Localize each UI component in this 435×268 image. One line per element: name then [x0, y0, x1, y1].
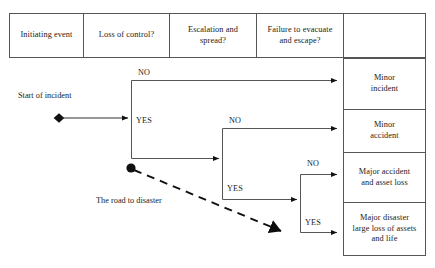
road-to-disaster-label: The road to disaster	[96, 196, 162, 206]
outcome-box-major-disaster	[344, 203, 426, 256]
road-start-circle-icon	[126, 163, 135, 172]
branch2-yes-label: YES	[227, 184, 243, 193]
branch3-no-label: NO	[307, 159, 319, 168]
start-of-incident-label: Start of incident	[18, 91, 71, 101]
branch2-no-label: NO	[229, 116, 241, 125]
start-node-group	[54, 113, 128, 123]
outcome-box-minor-accident	[344, 110, 426, 153]
branch3-yes-label: YES	[305, 218, 321, 227]
branch1-yes-label: YES	[136, 116, 152, 125]
diagram-vector-layer	[0, 0, 435, 268]
outcome-boxes	[344, 59, 426, 256]
outcome-box-minor-incident	[344, 59, 426, 110]
branch1-no-label: NO	[138, 68, 150, 77]
header-table	[10, 14, 426, 58]
header-table-outline	[10, 14, 426, 58]
outcome-box-major-accident	[344, 153, 426, 203]
event-tree-diagram: Initiating event Loss of control? Escala…	[0, 0, 435, 268]
